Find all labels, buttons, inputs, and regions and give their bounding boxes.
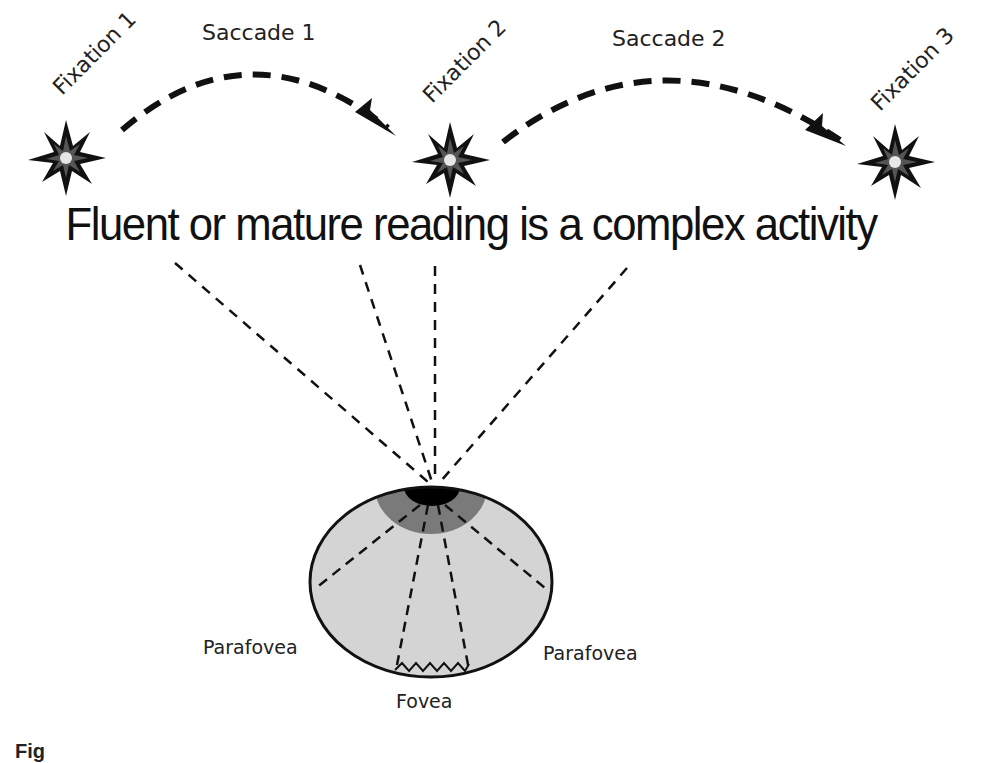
sight-lines [175, 263, 627, 482]
saccade-1-label: Saccade 1 [202, 20, 316, 45]
saccade-2-arrow [503, 80, 840, 142]
saccade-2-arrowhead-icon [805, 113, 846, 146]
figure-caption: Fig [15, 740, 45, 763]
fixation-3-label: Fixation 3 [866, 22, 959, 115]
reading-sentence: Fluent or mature reading is a complex ac… [20, 196, 922, 251]
fovea-label: Fovea [396, 690, 452, 712]
saccade-1-arrowhead-icon [355, 98, 396, 136]
fixation-1-label: Fixation 1 [48, 6, 141, 99]
fixation-1-star-icon [28, 120, 106, 196]
parafovea-right-label: Parafovea [543, 642, 638, 664]
fixation-2-label: Fixation 2 [418, 14, 511, 107]
fixation-3-star-icon [857, 124, 935, 200]
saccade-1-arrow [122, 74, 388, 130]
fixation-2-star-icon [412, 122, 490, 198]
saccade-2-label: Saccade 2 [612, 26, 726, 51]
parafovea-left-label: Parafovea [203, 636, 298, 658]
